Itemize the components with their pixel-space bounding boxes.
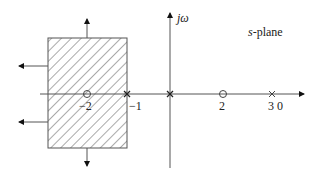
hatched-region	[48, 38, 127, 148]
s-plane-label: s-plane	[248, 25, 283, 39]
s-plane-suffix: -plane	[253, 25, 283, 39]
tick-label-two: 2	[219, 99, 225, 113]
jw-axis-label: jω	[175, 11, 189, 25]
tick-label-neg-one: −1	[129, 99, 142, 113]
tick-label-three-zero: 3 0	[268, 99, 283, 113]
tick-label-neg-two: −2	[79, 99, 92, 113]
s-plane-diagram: jω s-plane −2 −1 2 3 0	[0, 0, 319, 173]
